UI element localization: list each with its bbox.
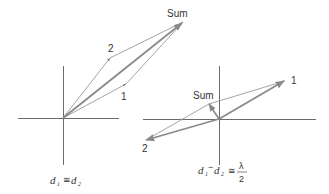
caption-approx: ≅ [228,166,236,176]
left-label-sum: Sum [167,8,188,19]
caption-approx: ≅ [63,175,71,185]
caption-d1: d [198,164,204,176]
left-label-2: 2 [108,43,114,54]
left-vector-1 [63,84,126,118]
left-sum-vector [63,23,182,118]
caption-minus: − [208,162,213,172]
caption-sub2: 2 [78,181,81,187]
left-diagram: 2 1 Sum d 1 ≅ d 2 [18,8,188,187]
caption-d2: d [71,174,77,186]
left-parallelogram-edge-b [126,22,183,84]
phasor-diagram: 2 1 Sum d 1 ≅ d 2 1 2 Sum d 1 − d 2 ≅ λ [0,0,329,194]
caption-sub1: 1 [57,181,60,187]
left-vector-2 [63,58,110,118]
right-vector-2 [146,119,219,140]
right-label-1: 1 [291,75,297,86]
caption-d1: d [50,174,56,186]
right-label-2: 2 [142,143,148,154]
right-caption: d 1 − d 2 ≅ λ 2 [198,161,247,184]
left-parallelogram-edge-a [110,22,183,58]
right-parallelogram-edge-a [146,104,209,140]
right-diagram: 1 2 Sum d 1 − d 2 ≅ λ 2 [142,66,316,184]
left-label-1: 1 [121,91,127,102]
left-caption: d 1 ≅ d 2 [50,174,81,187]
right-vector-1 [219,81,284,119]
caption-lambda: λ [239,161,244,171]
caption-d2: d [214,164,220,176]
right-parallelogram-edge-b [209,81,285,104]
caption-denominator: 2 [239,174,244,184]
right-label-sum: Sum [193,90,214,101]
right-sum-vector [209,104,219,119]
caption-sub2: 2 [221,171,224,177]
